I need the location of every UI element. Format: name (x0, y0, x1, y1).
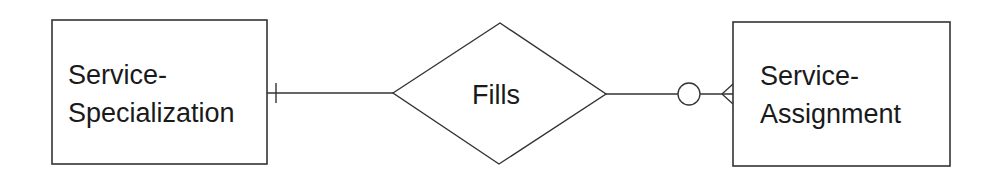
entity-label-line1: Service- (760, 57, 901, 95)
entity-label-service-assignment: Service- Assignment (760, 57, 901, 133)
entity-label-line1: Service- (68, 56, 235, 94)
cardinality-zero-circle-icon (678, 83, 700, 105)
relationship-label-fills: Fills (472, 76, 520, 114)
entity-label-line2: Assignment (760, 95, 901, 133)
entity-label-line2: Specialization (68, 94, 235, 132)
entity-label-service-specialization: Service- Specialization (68, 56, 235, 132)
